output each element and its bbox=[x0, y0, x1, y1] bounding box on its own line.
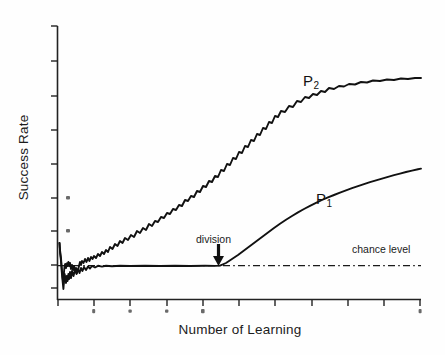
series-label-p2-subscript: 2 bbox=[314, 80, 320, 91]
x-axis-ticks bbox=[58, 300, 420, 306]
y-axis-title: Success Rate bbox=[16, 88, 31, 228]
y-axis-tick-labels-degraded bbox=[66, 196, 70, 265]
line-chart bbox=[0, 0, 445, 355]
y-axis-ticks bbox=[51, 26, 58, 288]
series-label-p1-subscript: 1 bbox=[327, 198, 333, 209]
x-axis-title: Number of Learning bbox=[100, 322, 380, 337]
x-axis-tick-labels-degraded bbox=[92, 309, 421, 313]
series-label-p1-text: P bbox=[316, 190, 326, 207]
axes bbox=[57, 26, 421, 300]
division-arrow-icon bbox=[213, 244, 224, 266]
series-label-p2: P2 bbox=[303, 72, 319, 89]
annotation-division: division bbox=[196, 233, 231, 245]
figure-container: Success Rate Number of Learning P2 P1 di… bbox=[0, 0, 445, 355]
series-label-p1: P1 bbox=[316, 190, 332, 207]
annotation-chance-level: chance level bbox=[352, 243, 410, 255]
curve-p1 bbox=[60, 169, 422, 289]
series-label-p2-text: P bbox=[303, 72, 313, 89]
